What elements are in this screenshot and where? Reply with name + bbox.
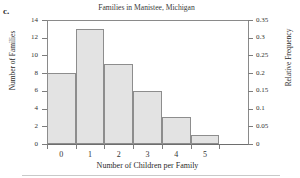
y-tick-left — [42, 91, 47, 92]
y-tick-right — [248, 91, 253, 92]
y-tick-left — [42, 20, 47, 21]
y-tick-right — [248, 144, 253, 145]
y-axis-title-right: Relative Frequency — [284, 23, 293, 93]
x-tick — [133, 144, 134, 149]
x-axis-title: Number of Children per Family — [47, 161, 248, 170]
x-tick-label-5: 5 — [194, 151, 216, 159]
y-tick-label-left-2: 2 — [14, 123, 38, 130]
y-tick-label-right-0: 0 — [256, 141, 280, 148]
bar-5 — [191, 135, 220, 144]
y-tick-label-right-0.1: 0.1 — [256, 105, 280, 112]
y-tick-right — [248, 126, 253, 127]
y-tick-label-right-0.05: 0.05 — [256, 123, 280, 130]
x-tick-label-3: 3 — [137, 151, 159, 159]
x-tick — [219, 144, 220, 149]
bar-2 — [104, 64, 133, 144]
y-tick-label-left-12: 12 — [14, 34, 38, 41]
x-tick — [104, 144, 105, 149]
x-tick-label-1: 1 — [79, 151, 101, 159]
y-tick-left — [42, 109, 47, 110]
y-tick-right — [248, 20, 253, 21]
y-tick-label-right-0.35: 0.35 — [256, 17, 280, 24]
bar-1 — [76, 29, 105, 144]
y-tick-label-left-0: 0 — [14, 141, 38, 148]
y-tick-label-left-14: 14 — [14, 17, 38, 24]
y-tick-right — [248, 73, 253, 74]
part-label: c. — [3, 6, 9, 16]
x-tick — [191, 144, 192, 149]
y-tick-left — [42, 38, 47, 39]
y-tick-label-right-0.15: 0.15 — [256, 87, 280, 94]
y-tick-label-right-0.3: 0.3 — [256, 34, 280, 41]
y-tick-label-left-8: 8 — [14, 70, 38, 77]
x-tick-label-0: 0 — [50, 151, 72, 159]
chart-title: Families in Manistee, Michigan — [44, 3, 249, 12]
y-tick-left — [42, 73, 47, 74]
y-tick-right — [248, 38, 253, 39]
y-tick-label-left-4: 4 — [14, 105, 38, 112]
bottom-rule — [22, 175, 280, 176]
y-tick-left — [42, 126, 47, 127]
y-axis-title-left: Number of Families — [8, 31, 17, 91]
bar-3 — [133, 91, 162, 144]
x-tick — [76, 144, 77, 149]
y-tick-label-right-0.25: 0.25 — [256, 52, 280, 59]
y-tick-left — [42, 55, 47, 56]
y-tick-right — [248, 109, 253, 110]
y-tick-label-right-0.2: 0.2 — [256, 70, 280, 77]
y-tick-label-left-6: 6 — [14, 87, 38, 94]
x-tick — [162, 144, 163, 149]
y-tick-right — [248, 55, 253, 56]
plot-area — [47, 20, 248, 144]
bar-4 — [162, 117, 191, 144]
x-tick-label-4: 4 — [165, 151, 187, 159]
x-tick — [47, 144, 48, 149]
y-tick-label-left-10: 10 — [14, 52, 38, 59]
bar-0 — [47, 73, 76, 144]
x-tick-label-2: 2 — [108, 151, 130, 159]
